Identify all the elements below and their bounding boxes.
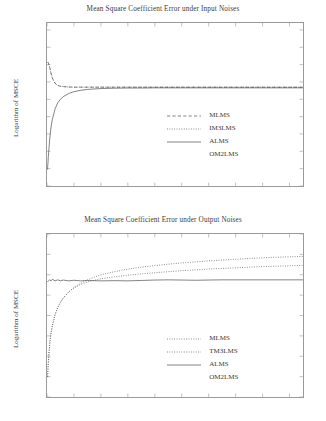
- series-line: [48, 279, 303, 282]
- legend-label: IM3LMS: [209, 122, 235, 135]
- plot-area: 0123456789-2-3-4-5-6-7-8-9-10: [46, 233, 304, 398]
- legend-line-sample: [167, 377, 201, 378]
- legend-label: MLMS: [209, 109, 230, 122]
- legend-label: OM2LMS: [209, 371, 238, 384]
- legend-line-sample: [167, 115, 201, 116]
- y-axis-label: Logarithm of MSCE: [12, 259, 20, 379]
- legend-line-sample: [167, 351, 201, 352]
- legend-line-sample: [167, 154, 201, 155]
- chart-panel-output-noises: Mean Square Coefficient Error under Outp…: [0, 211, 326, 421]
- chart-title: Mean Square Coefficient Error under Inpu…: [0, 5, 326, 13]
- legend-label: ALMS: [209, 358, 228, 371]
- legend-line-sample: [167, 141, 201, 142]
- legend-label: OM2LMS: [209, 148, 238, 161]
- chart-title: Mean Square Coefficient Error under Outp…: [0, 216, 326, 224]
- plot-lines: [47, 234, 303, 397]
- legend-label: ALMS: [209, 135, 228, 148]
- legend-line-sample: [167, 128, 201, 129]
- plot-area: 0123456789210-1-2-3-4-5-6-7: [46, 22, 304, 187]
- series-line: [48, 265, 303, 376]
- series-line: [48, 62, 303, 87]
- plot-lines: [47, 23, 303, 186]
- y-axis-label: Logarithm of MSCE: [12, 48, 20, 168]
- legend-line-sample: [167, 338, 201, 339]
- series-line: [48, 62, 303, 87]
- figure-canvas: Mean Square Coefficient Error under Inpu…: [0, 0, 326, 421]
- legend-line-sample: [167, 364, 201, 365]
- legend-label: MLMS: [209, 332, 230, 345]
- series-line: [48, 256, 303, 376]
- chart-panel-input-noises: Mean Square Coefficient Error under Inpu…: [0, 0, 326, 210]
- legend-label: TM3LMS: [209, 345, 237, 358]
